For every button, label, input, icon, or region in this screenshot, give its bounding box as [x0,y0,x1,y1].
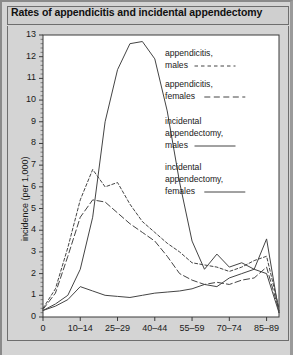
legend-entry-label: males [165,60,188,70]
y-tick-label: 3 [18,246,36,256]
x-axis-ticks [43,317,267,321]
y-axis-ticks [39,35,43,317]
y-tick-label: 6 [18,181,36,191]
legend-entry-label: incidental [165,162,201,172]
plot-frame [43,35,279,317]
x-tick-label: 85–89 [247,323,287,333]
y-tick-label: 0 [18,311,36,321]
y-tick-label: 13 [18,29,36,39]
legend-entry-label: appendicitis, [165,48,213,58]
figure-panel: Rates of appendicitis and incidental app… [0,0,293,355]
x-tick-label: 0 [23,323,63,333]
x-tick-label: 70–74 [209,323,249,333]
y-tick-label: 8 [18,137,36,147]
x-tick-label: 10–14 [60,323,100,333]
y-tick-label: 10 [18,94,36,104]
y-tick-label: 1 [18,289,36,299]
x-tick-label: 25–29 [98,323,138,333]
y-tick-label: 4 [18,224,36,234]
legend-entry-label: females [165,186,195,196]
plot-area: incidence (per 1,000) age group (years) … [7,26,289,341]
legend-entry-label: incidental [165,116,201,126]
legend-entry-label: appendectomy, [165,128,223,138]
legend-entry-label: males [165,140,188,150]
x-tick-label: 40–44 [135,323,175,333]
y-tick-label: 7 [18,159,36,169]
y-tick-label: 5 [18,203,36,213]
legend-entry-label: appendicitis, [165,79,213,89]
y-tick-label: 9 [18,116,36,126]
chart-svg [8,26,288,339]
x-tick-label: 55–59 [172,323,212,333]
legend-entry-label: females [165,91,195,101]
y-tick-label: 2 [18,268,36,278]
y-tick-label: 11 [18,72,36,82]
chart-title: Rates of appendicitis and incidental app… [11,6,262,18]
legend-entry-label: appendectomy, [165,174,223,184]
y-tick-label: 12 [18,51,36,61]
